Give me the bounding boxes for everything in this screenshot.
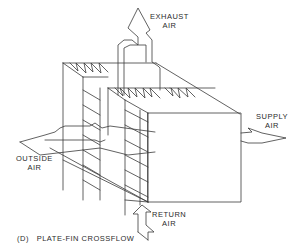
caption-prefix: (D) (17, 234, 29, 243)
outside-air-label: OUTSIDE AIR (16, 154, 53, 172)
return-label-line1: RETURN (152, 210, 186, 219)
supply-air-label: SUPPLY AIR (256, 112, 288, 130)
outside-air-arrow (20, 123, 155, 155)
side-fins (50, 88, 148, 205)
exhaust-label-line2: AIR (150, 21, 189, 30)
supply-air-arrow (241, 128, 286, 143)
supply-label-line1: SUPPLY (256, 112, 288, 121)
return-air-arrow (133, 205, 154, 240)
middle-plate-layer (108, 88, 215, 215)
exhaust-air-label: EXHAUST AIR (150, 12, 189, 30)
front-box (125, 100, 241, 202)
caption-title: PLATE-FIN CROSSFLOW (37, 234, 135, 243)
return-label-line2: AIR (152, 219, 186, 228)
outside-label-line2: AIR (16, 163, 53, 172)
figure-caption: (D) PLATE-FIN CROSSFLOW (17, 234, 134, 243)
supply-label-line2: AIR (256, 121, 288, 130)
exhaust-label-line1: EXHAUST (150, 12, 189, 21)
return-air-label: RETURN AIR (152, 210, 186, 228)
outside-label-line1: OUTSIDE (16, 154, 53, 163)
